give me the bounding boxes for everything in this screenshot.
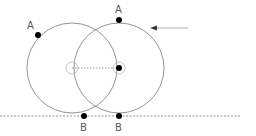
label-b-initial: B: [80, 122, 87, 133]
label-a-displaced: A: [115, 4, 122, 15]
direction-arrow-icon: [150, 26, 188, 31]
point-a-displaced: [116, 17, 122, 23]
rolling-circle-diagram: A A B B: [0, 0, 256, 136]
point-b-initial: [81, 113, 87, 119]
center-point-displaced: [116, 65, 122, 71]
label-a-initial: A: [27, 20, 34, 31]
label-b-displaced: B: [115, 122, 122, 133]
point-a-initial: [35, 32, 41, 38]
point-b-displaced: [116, 113, 122, 119]
